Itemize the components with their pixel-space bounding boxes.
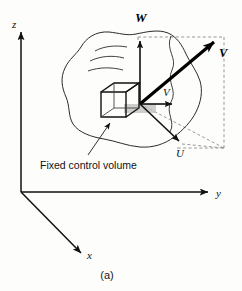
velocity-vectors bbox=[140, 41, 214, 141]
vector-label-W: W bbox=[135, 10, 148, 25]
vector-label-V-resultant: V bbox=[219, 46, 229, 60]
axis-label-x: x bbox=[86, 249, 92, 261]
axis-label-y: y bbox=[215, 187, 221, 199]
control-volume-annotation: Fixed control volume bbox=[40, 159, 137, 171]
vector-label-V-component: V bbox=[163, 86, 171, 98]
figure-caption: (a) bbox=[100, 269, 113, 281]
figure-container: z y x V W V U Fixed control volume (a) bbox=[0, 0, 242, 291]
axis-x-line bbox=[21, 192, 81, 253]
leader-line bbox=[88, 123, 110, 155]
control-volume-diagram: z y x V W V U Fixed control volume (a) bbox=[0, 0, 242, 291]
flow-region-blob bbox=[62, 31, 201, 147]
diagram-labels: z y x V W V U Fixed control volume (a) bbox=[11, 10, 229, 281]
control-volume-leader bbox=[88, 123, 110, 155]
axis-label-z: z bbox=[11, 18, 17, 30]
vector-V-resultant bbox=[140, 42, 214, 104]
vector-U-component bbox=[140, 104, 179, 141]
vector-label-U: U bbox=[176, 147, 185, 159]
coordinate-axes bbox=[21, 32, 208, 253]
